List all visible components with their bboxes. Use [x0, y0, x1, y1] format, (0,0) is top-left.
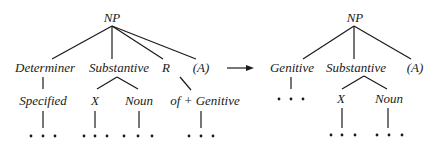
- ellipsis-noun-right: [376, 134, 404, 137]
- node-specified: Specified: [19, 93, 67, 108]
- ellipsis-noun: [123, 135, 154, 138]
- left-tree: NP Determiner Substantive R (A) Specifie…: [14, 10, 240, 137]
- ellipsis-genitive: [188, 135, 215, 138]
- ellipsis-genitive-right: [278, 98, 305, 101]
- node-noun-right: Noun: [374, 91, 403, 106]
- edge-substantive-x-right: [342, 76, 364, 89]
- node-noun: Noun: [124, 93, 153, 108]
- edge-substantive-noun: [117, 77, 138, 89]
- edge-np-genitive: [303, 26, 354, 59]
- node-determiner: Determiner: [14, 60, 76, 75]
- node-a-optional: (A): [193, 60, 210, 75]
- node-genitive: Genitive: [270, 60, 314, 75]
- left-root-np: NP: [103, 10, 121, 25]
- edge-np-a-right: [354, 26, 411, 59]
- right-root-np: NP: [346, 10, 364, 25]
- ellipsis-specified: [30, 135, 57, 138]
- node-of-genitive: of + Genitive: [170, 93, 240, 108]
- node-substantive-right: Substantive: [326, 60, 386, 75]
- edge-np-determiner: [52, 26, 112, 59]
- node-substantive: Substantive: [89, 60, 149, 75]
- node-r: R: [161, 60, 170, 75]
- edge-np-a: [112, 26, 196, 59]
- ellipsis-x-right: [330, 134, 357, 137]
- edge-r-of-genitive: [180, 77, 191, 90]
- node-a-optional-right: (A): [407, 60, 424, 75]
- edge-substantive-x: [97, 77, 117, 89]
- node-x-right: X: [336, 91, 346, 106]
- transformation-diagram: NP Determiner Substantive R (A) Specifie…: [0, 0, 439, 146]
- transform-arrow-icon: [227, 65, 254, 71]
- node-x: X: [90, 93, 100, 108]
- right-tree: NP Genitive Substantive (A) X Noun: [270, 10, 423, 136]
- edge-substantive-noun-right: [364, 76, 387, 89]
- ellipsis-x: [83, 135, 109, 138]
